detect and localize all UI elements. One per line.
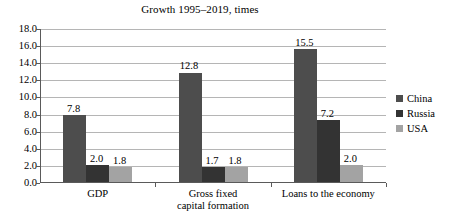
y-axis-tick-label: 18.0 <box>0 24 37 34</box>
legend-swatch-icon <box>396 110 403 117</box>
y-axis-tick-label: 4.0 <box>0 144 37 154</box>
y-axis-tick-label: 6.0 <box>0 127 37 137</box>
y-axis-tick-label: 16.0 <box>0 41 37 51</box>
bar-value-label: 15.5 <box>284 37 324 48</box>
y-axis-tick-label: 14.0 <box>0 58 37 68</box>
legend-label: China <box>407 93 432 104</box>
bar-value-label: 1.8 <box>100 155 140 166</box>
legend-swatch-icon <box>396 125 403 132</box>
legend-swatch-icon <box>396 95 403 102</box>
y-axis-tick-label: 10.0 <box>0 92 37 102</box>
x-axis-category-label: Gross fixed capital formation <box>155 188 270 212</box>
y-axis-tick-label: 2.0 <box>0 161 37 171</box>
bar-china <box>63 115 86 182</box>
chart-title: Growth 1995–2019, times <box>0 3 400 16</box>
bar-value-label: 2.0 <box>330 153 370 164</box>
x-axis-category-label: Loans to the economy <box>271 188 386 200</box>
legend-label: Russia <box>407 108 435 119</box>
bar-usa <box>225 167 248 182</box>
y-axis-tick-mark <box>36 183 40 184</box>
bar-chart: Growth 1995–2019, times 18.016.014.012.0… <box>0 0 461 224</box>
y-axis-tick-label: 0.0 <box>0 178 37 188</box>
bar-value-label: 12.8 <box>169 60 209 71</box>
legend-label: USA <box>407 123 428 134</box>
chart-legend: ChinaRussiaUSA <box>396 91 461 136</box>
y-axis-tick-label: 12.0 <box>0 75 37 85</box>
bar-value-label: 7.2 <box>307 108 347 119</box>
legend-item-china[interactable]: China <box>396 91 461 106</box>
bar-russia <box>317 120 340 182</box>
bar-russia <box>86 165 109 182</box>
bar-russia <box>202 167 225 182</box>
legend-item-russia[interactable]: Russia <box>396 106 461 121</box>
bar-usa <box>340 165 363 182</box>
bar-value-label: 7.8 <box>54 103 94 114</box>
y-axis-tick-label: 8.0 <box>0 110 37 120</box>
x-axis-category-label: GDP <box>40 188 155 200</box>
x-axis-tick-mark <box>271 183 272 187</box>
x-axis-tick-mark <box>386 183 387 187</box>
bar-usa <box>109 167 132 182</box>
x-axis-tick-mark <box>155 183 156 187</box>
bar-value-label: 1.8 <box>215 155 255 166</box>
legend-item-usa[interactable]: USA <box>396 121 461 136</box>
